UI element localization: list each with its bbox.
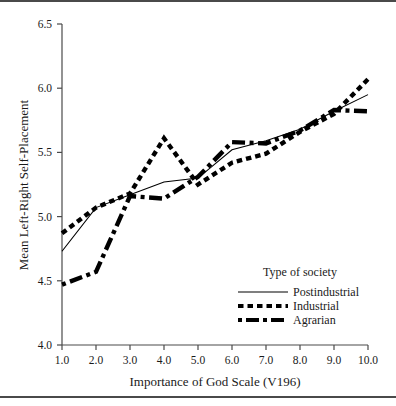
y-axis-ticks: 4.04.55.05.56.06.5 [38,18,62,351]
y-tick-label: 5.0 [38,211,53,223]
legend-title: Type of society [263,265,337,279]
x-axis-ticks: 1.02.03.04.05.06.07.08.09.010.0 [55,345,379,366]
x-tick-label: 4.0 [157,354,172,366]
x-tick-label: 1.0 [55,354,70,366]
x-tick-label: 6.0 [225,354,240,366]
x-tick-label: 9.0 [327,354,342,366]
x-tick-label: 10.0 [358,354,378,366]
legend-label-industrial: Industrial [293,299,340,313]
legend-entry-industrial[interactable]: Industrial [238,299,340,313]
bottom-rule [0,396,396,398]
y-tick-label: 6.5 [38,18,53,30]
series-line-industrial [62,79,368,233]
y-axis-title: Mean Left-Right Self-Placement [16,99,31,270]
x-tick-label: 8.0 [293,354,308,366]
y-tick-label: 4.5 [38,275,53,287]
top-rule [0,0,396,2]
x-axis-title: Importance of God Scale (V196) [129,374,300,389]
y-tick-label: 6.0 [38,82,53,94]
legend-label-postindustrial: Postindustrial [293,285,360,299]
chart-legend: Type of society Postindustrial Industria… [238,265,360,327]
x-tick-label: 3.0 [123,354,138,366]
x-tick-label: 2.0 [89,354,104,366]
legend-entry-agrarian[interactable]: Agrarian [238,313,336,327]
chart-canvas: 4.04.55.05.56.06.5 1.02.03.04.05.06.07.0… [0,0,396,406]
x-tick-label: 7.0 [259,354,274,366]
y-tick-label: 5.5 [38,146,53,158]
chart-figure: 4.04.55.05.56.06.5 1.02.03.04.05.06.07.0… [0,0,396,406]
series-line-agrarian [62,110,368,285]
legend-label-agrarian: Agrarian [293,313,336,327]
legend-entry-postindustrial[interactable]: Postindustrial [238,285,360,299]
data-series-layer [62,79,368,284]
y-tick-label: 4.0 [38,339,53,351]
x-tick-label: 5.0 [191,354,206,366]
